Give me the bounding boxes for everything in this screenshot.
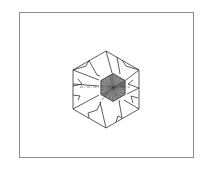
hexagon-fold-diagram	[0, 0, 209, 171]
